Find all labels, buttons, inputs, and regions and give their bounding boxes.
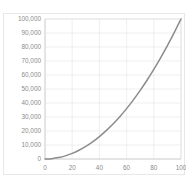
y-axis-tick-label: 0: [37, 155, 41, 162]
y-axis-tick-labels: 010,00020,00030,00040,00050,00060,00070,…: [18, 15, 42, 162]
x-axis-tick-label: 60: [123, 164, 131, 171]
x-axis-tick-label: 20: [69, 164, 77, 171]
y-axis-tick-label: 50,000: [21, 85, 41, 92]
line-chart: 010,00020,00030,00040,00050,00060,00070,…: [4, 14, 186, 176]
gridlines: [45, 19, 181, 159]
chart-container: 010,00020,00030,00040,00050,00060,00070,…: [3, 13, 185, 175]
y-axis-tick-label: 10,000: [21, 141, 41, 148]
x-axis-tick-label: 100: [176, 164, 186, 171]
y-axis-tick-label: 90,000: [21, 29, 41, 36]
x-axis-tick-label: 80: [150, 164, 158, 171]
y-axis-tick-label: 60,000: [21, 71, 41, 78]
x-axis-tick-labels: 020406080100: [43, 164, 186, 171]
x-axis-tick-label: 0: [43, 164, 47, 171]
y-axis-tick-label: 100,000: [18, 15, 42, 22]
y-axis-tick-label: 30,000: [21, 113, 41, 120]
y-axis-tick-label: 20,000: [21, 127, 41, 134]
y-axis-tick-label: 40,000: [21, 99, 41, 106]
x-axis-tick-label: 40: [96, 164, 104, 171]
y-axis-tick-label: 70,000: [21, 57, 41, 64]
y-axis-tick-label: 80,000: [21, 43, 41, 50]
